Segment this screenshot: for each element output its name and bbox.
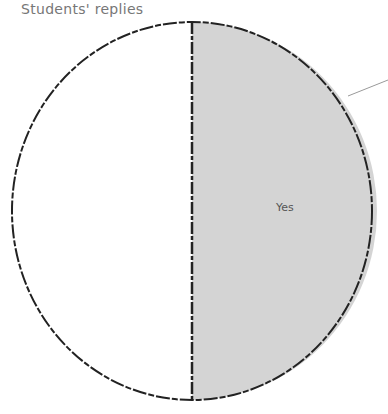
- pie-slice-other: [7, 22, 192, 400]
- leader-line: [348, 80, 388, 96]
- pie-chart: [0, 0, 388, 414]
- slice-label-yes: Yes: [276, 201, 294, 214]
